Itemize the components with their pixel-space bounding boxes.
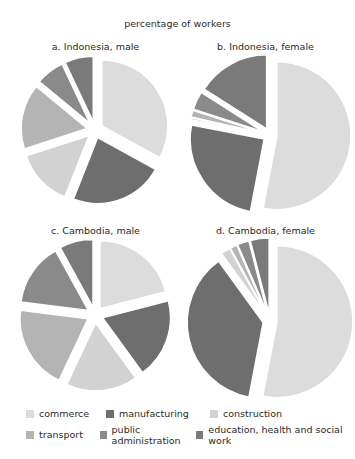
legend-item-construction: construction <box>210 408 282 419</box>
pie-slice-manufacturing <box>190 125 264 212</box>
pie-cambodia-male <box>20 240 170 390</box>
pie-cambodia-female <box>182 235 352 400</box>
legend-item-commerce: commerce <box>26 408 106 419</box>
legend-item-manufacturing: manufacturing <box>106 408 210 419</box>
legend-swatch <box>210 410 218 418</box>
figure-title: percentage of workers <box>0 18 355 29</box>
pie-indonesia-female <box>190 55 350 215</box>
legend-swatch <box>100 431 107 439</box>
legend-item-transport: transport <box>26 429 100 440</box>
legend-item-education: education, health and social work <box>196 424 355 446</box>
legend: commerce manufacturing construction tran… <box>26 403 355 445</box>
panel-title-c: c. Cambodia, male <box>8 225 183 236</box>
legend-label: public administration <box>112 424 196 446</box>
legend-swatch <box>26 410 34 418</box>
legend-label: manufacturing <box>119 408 189 419</box>
pie-slice-commerce <box>102 60 168 158</box>
panel-title-a: a. Indonesia, male <box>8 41 183 52</box>
pie-indonesia-male <box>20 55 170 205</box>
panel-title-b: b. Indonesia, female <box>178 41 353 52</box>
pie-slice-commerce <box>263 246 352 398</box>
legend-swatch <box>106 410 114 418</box>
pie-slice-commerce <box>100 241 166 309</box>
legend-label: commerce <box>39 408 89 419</box>
legend-label: construction <box>223 408 282 419</box>
legend-swatch <box>26 431 34 439</box>
legend-label: education, health and social work <box>208 424 355 446</box>
legend-label: transport <box>39 429 83 440</box>
legend-item-public-administration: public administration <box>100 424 196 446</box>
legend-swatch <box>196 431 203 439</box>
pie-slice-commerce <box>263 62 350 210</box>
